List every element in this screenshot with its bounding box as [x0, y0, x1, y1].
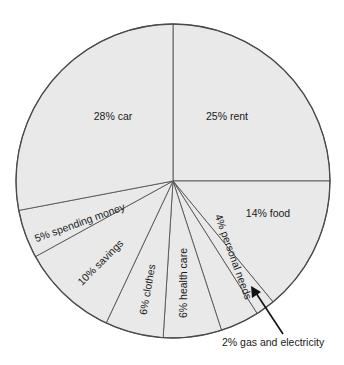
label-food: 14% food — [246, 207, 291, 219]
label-car: 28% car — [94, 110, 133, 122]
pie-chart: 25% rent 28% car 14% food 5% spending mo… — [0, 0, 344, 365]
label-rent: 25% rent — [206, 110, 248, 122]
label-gas-electricity: 2% gas and electricity — [222, 336, 325, 348]
slice-rent — [173, 24, 330, 181]
pie-slices — [16, 24, 330, 338]
label-health-care: 6% health care — [177, 248, 189, 318]
